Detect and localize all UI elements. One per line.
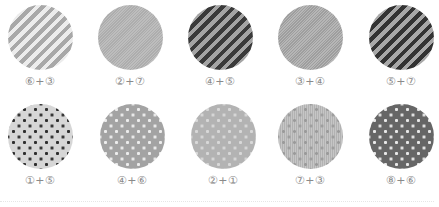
swatch-label: ②+⑦ (87, 75, 173, 88)
swatch-label: ⑧+⑥ (358, 174, 439, 187)
swatch-label: ③+④ (267, 75, 353, 88)
swatch-2-7: ②+⑦ (87, 5, 173, 88)
fine-hatch-circle (278, 5, 343, 70)
pale-dot-circle (191, 104, 256, 169)
diagonal-stripe-dark-circle (188, 5, 253, 70)
swatch-5-7: ⑤+⑦ (358, 5, 439, 88)
dark-dot-circle (8, 104, 73, 169)
swatch-4-5: ④+⑤ (177, 5, 263, 88)
fine-hatch-circle (98, 5, 163, 70)
white-dot-circle (100, 104, 165, 169)
swatch-label: ②+① (180, 174, 266, 187)
swatch-7-3: ⑦+③ (267, 104, 353, 187)
swatch-4-6: ④+⑥ (89, 104, 175, 187)
dot-vertical-line-circle (278, 104, 343, 169)
swatch-label: ⑦+③ (267, 174, 353, 187)
white-dot-dark-circle (369, 104, 434, 169)
diagonal-stripe-dark-circle (369, 5, 434, 70)
swatch-label: ⑥+③ (0, 75, 83, 88)
swatch-label: ④+⑤ (177, 75, 263, 88)
swatch-3-4: ③+④ (267, 5, 353, 88)
swatch-8-6: ⑧+⑥ (358, 104, 439, 187)
swatch-6-3: ⑥+③ (0, 5, 83, 88)
swatch-2-1: ②+① (180, 104, 266, 187)
swatch-label: ①+⑤ (0, 174, 83, 187)
diagonal-stripe-light-circle (8, 5, 73, 70)
swatch-1-5: ①+⑤ (0, 104, 83, 187)
bottom-divider (0, 201, 434, 202)
swatch-label: ④+⑥ (89, 174, 175, 187)
swatch-label: ⑤+⑦ (358, 75, 439, 88)
